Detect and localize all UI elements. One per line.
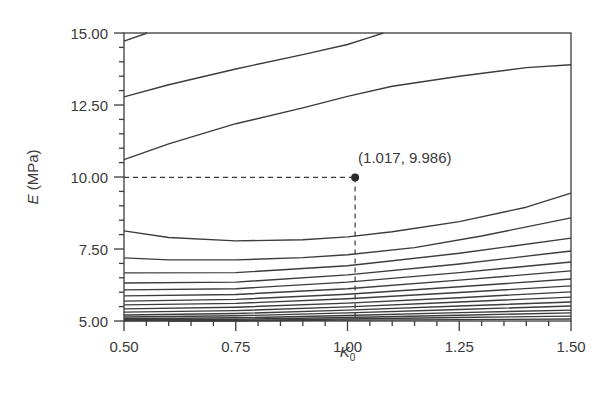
contour-line bbox=[124, 33, 383, 97]
x-tick-label: 1.50 bbox=[556, 338, 585, 355]
y-axis-label-unit: (MPa) bbox=[24, 149, 41, 194]
y-axis-ticks: 5.007.5010.0012.5015.00 bbox=[70, 25, 124, 330]
x-tick-label: 1.25 bbox=[445, 338, 474, 355]
y-tick-label: 12.50 bbox=[70, 97, 108, 114]
y-axis-label: E (MPa) bbox=[24, 149, 41, 204]
x-tick-label: 0.75 bbox=[221, 338, 250, 355]
y-tick-label: 10.00 bbox=[70, 169, 108, 186]
y-tick-label: 15.00 bbox=[70, 25, 108, 42]
y-tick-label: 5.00 bbox=[79, 313, 108, 330]
y-tick-label: 7.50 bbox=[79, 241, 108, 258]
point-marker bbox=[351, 173, 359, 181]
contour-line bbox=[124, 193, 571, 241]
contour-chart: 0.500.751.001.251.50 5.007.5010.0012.501… bbox=[0, 0, 608, 407]
contour-line bbox=[124, 251, 571, 283]
contour-line bbox=[124, 33, 147, 41]
marked-point bbox=[351, 173, 359, 181]
point-annotation: (1.017, 9.986) bbox=[358, 149, 451, 166]
x-tick-label: 0.50 bbox=[109, 338, 138, 355]
x-axis-label-subscript: 0 bbox=[350, 352, 356, 363]
